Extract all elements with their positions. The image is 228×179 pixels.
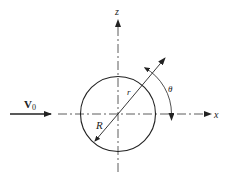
theta-label: θ [168, 84, 173, 94]
radius-R-label: R [95, 119, 103, 131]
z-axis-label: z [114, 6, 119, 17]
velocity-label: V0 [24, 98, 36, 112]
x-axis-label: x [213, 109, 219, 120]
radial-vector-r [118, 58, 165, 114]
radius-r-label: r [127, 87, 131, 97]
sphere-flow-diagram: z x V0 r R θ [0, 0, 228, 179]
